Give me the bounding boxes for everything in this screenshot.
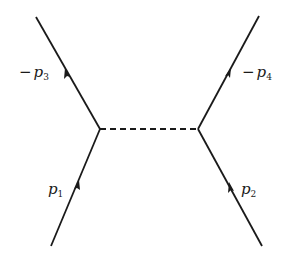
label-p1: p1 [48, 180, 63, 199]
label-p2: p2 [241, 180, 256, 199]
external-line-p2 [198, 129, 262, 246]
label-p4: −p4 [242, 63, 272, 82]
arrow-icon [74, 180, 80, 190]
external-line-p1 [51, 129, 100, 246]
label-p3: −p3 [19, 63, 49, 82]
feynman-diagram: −p3 −p4 p1 p2 [0, 0, 293, 259]
